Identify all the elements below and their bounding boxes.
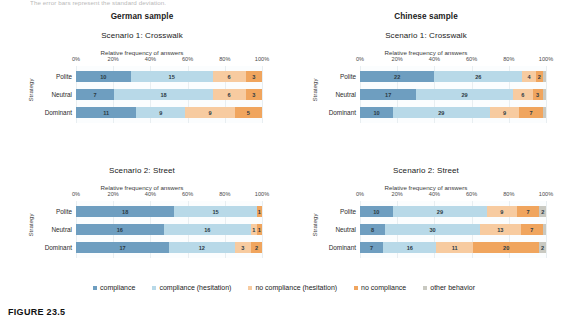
bar-segment: 2 <box>251 242 262 253</box>
bar-segment: 15 <box>174 206 256 217</box>
bar-row: Dominant71611202 <box>360 240 546 255</box>
bar-segment: 10 <box>76 71 131 82</box>
gridline <box>546 66 547 123</box>
y-axis-label-de-s1: Strategy <box>27 78 34 101</box>
stacked-bar: 11995 <box>76 107 262 118</box>
legend-label: other behavior <box>430 284 475 291</box>
bar-segment: 29 <box>393 107 489 118</box>
bar-segment: 8 <box>360 224 385 235</box>
bar-segment: 9 <box>136 107 185 118</box>
y-axis-label-de-s2: Strategy <box>27 213 34 236</box>
x-tick-label: 20% <box>108 191 119 197</box>
y-axis-label-cn-s1: Strategy <box>311 78 318 101</box>
bar-segment: 9 <box>487 206 516 217</box>
bar-segment: 18 <box>76 206 174 217</box>
legend-label: compliance <box>100 284 135 291</box>
chart-grid: German sample Scenario 1: Crosswalk Rela… <box>0 8 568 283</box>
bar-segment: 16 <box>383 242 436 253</box>
bar-segment: 13 <box>480 224 521 235</box>
bar-segment: 2 <box>539 242 546 253</box>
bar-row: Polite101563 <box>76 69 262 84</box>
panel-german-scenario1: German sample Scenario 1: Crosswalk Rela… <box>0 8 284 160</box>
bar-row: Neutral161611 <box>76 222 262 237</box>
bar-segment: 6 <box>513 89 533 100</box>
x-tick-label: 60% <box>182 191 193 197</box>
bars-de-s1: Polite101563Neutral71863Dominant11995 <box>76 66 262 123</box>
bar-segment: 7 <box>360 242 383 253</box>
bar-segment: 7 <box>519 107 542 118</box>
chart-legend: compliancecompliance (hesitation)no comp… <box>0 284 568 291</box>
legend-item[interactable]: other behavior <box>423 284 475 291</box>
x-tick-label: 80% <box>219 56 230 62</box>
figure-caption: FIGURE 23.5 <box>8 307 65 317</box>
bar-segment: 9 <box>185 107 234 118</box>
legend-swatch-icon <box>423 286 427 290</box>
plot-de-s1: Strategy 0%20%40%60%80%100% Polite101563… <box>18 56 266 123</box>
x-tick-label: 60% <box>466 191 477 197</box>
bar-row: Neutral71863 <box>76 87 262 102</box>
x-tick-label: 0% <box>72 191 80 197</box>
x-axis-title-cn-s2: Relative frequency of answers <box>284 184 568 191</box>
gridline <box>262 201 263 258</box>
legend-item[interactable]: no compliance <box>354 284 406 291</box>
bar-segment <box>543 224 546 235</box>
x-axis-title-de-s1: Relative frequency of answers <box>0 49 284 56</box>
bar-segment: 10 <box>360 206 393 217</box>
x-tick-label: 60% <box>466 56 477 62</box>
bar-row-label: Dominant <box>45 109 72 116</box>
bar-segment: 5 <box>235 107 262 118</box>
stacked-bar: 102997 <box>360 107 546 118</box>
x-ticks-de-s2: 0%20%40%60%80%100% <box>76 191 262 201</box>
x-tick-label: 80% <box>503 191 514 197</box>
bar-segment: 26 <box>434 71 522 82</box>
x-tick-label: 0% <box>356 191 364 197</box>
gridline <box>262 66 263 123</box>
legend-swatch-icon <box>354 286 358 290</box>
x-tick-label: 0% <box>356 56 364 62</box>
legend-item[interactable]: compliance (hesitation) <box>152 284 231 291</box>
bar-segment: 22 <box>360 71 434 82</box>
legend-label: no compliance (hesitation) <box>255 284 337 291</box>
bar-segment <box>543 71 546 82</box>
bar-row-label: Polite <box>340 73 356 80</box>
bars-cn-s1: Polite222642Neutral172963Dominant102997 <box>360 66 546 123</box>
bar-segment: 3 <box>246 89 262 100</box>
stacked-bar: 101563 <box>76 71 262 82</box>
x-tick-label: 40% <box>429 56 440 62</box>
legend-item[interactable]: compliance <box>93 284 135 291</box>
x-ticks-de-s1: 0%20%40%60%80%100% <box>76 56 262 66</box>
x-tick-label: 40% <box>145 56 156 62</box>
bar-segment: 29 <box>393 206 488 217</box>
x-axis-title-cn-s1: Relative frequency of answers <box>284 49 568 56</box>
bar-row: Polite222642 <box>360 69 546 84</box>
bar-row: Neutral172963 <box>360 87 546 102</box>
x-ticks-cn-s1: 0%20%40%60%80%100% <box>360 56 546 66</box>
x-tick-label: 40% <box>145 191 156 197</box>
scenario-title-de-s1: Scenario 1: Crosswalk <box>0 31 284 40</box>
x-tick-label: 100% <box>255 56 269 62</box>
panel-chinese-scenario1: Chinese sample Scenario 1: Crosswalk Rel… <box>284 8 568 160</box>
x-ticks-cn-s2: 0%20%40%60%80%100% <box>360 191 546 201</box>
bar-segment: 20 <box>473 242 539 253</box>
bar-segment: 7 <box>521 224 543 235</box>
bar-segment <box>543 89 546 100</box>
bar-row-label: Dominant <box>329 109 356 116</box>
x-tick-label: 60% <box>182 56 193 62</box>
bar-row-label: Neutral <box>51 226 72 233</box>
bar-row: Dominant11995 <box>76 105 262 120</box>
bar-row: Polite18151 <box>76 204 262 219</box>
plot-cn-s2: Strategy 0%20%40%60%80%100% Polite102997… <box>302 191 550 258</box>
scenario-title-cn-s2: Scenario 2: Street <box>284 166 568 175</box>
stacked-bar: 172963 <box>360 89 546 100</box>
x-tick-label: 80% <box>219 191 230 197</box>
stacked-bar: 18151 <box>76 206 262 217</box>
stacked-bar: 71863 <box>76 89 262 100</box>
bar-segment: 12 <box>169 242 235 253</box>
bar-segment: 6 <box>213 71 246 82</box>
legend-item[interactable]: no compliance (hesitation) <box>248 284 337 291</box>
bar-segment: 10 <box>360 107 393 118</box>
x-tick-label: 20% <box>392 56 403 62</box>
bar-segment: 4 <box>522 71 536 82</box>
sample-title-german: German sample <box>0 12 284 21</box>
figure-page: The error bars represent the standard de… <box>0 0 568 324</box>
